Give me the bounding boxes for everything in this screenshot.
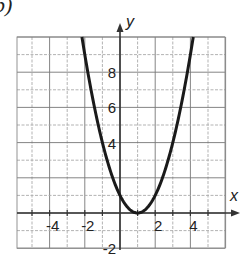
axes bbox=[17, 23, 240, 250]
y-tick-label: 6 bbox=[108, 99, 116, 116]
tick-labels: -4-224864-2 bbox=[46, 64, 198, 257]
x-axis-label: x bbox=[229, 187, 239, 204]
y-tick-label: 8 bbox=[108, 64, 116, 81]
y-tick-label: 4 bbox=[108, 135, 116, 152]
y-tick-label: -2 bbox=[103, 240, 116, 257]
x-tick-label: 2 bbox=[154, 217, 162, 234]
x-tick-label: 4 bbox=[189, 217, 197, 234]
parabola-chart: -4-224864-2 x y bbox=[0, 0, 250, 272]
y-axis-label: y bbox=[125, 13, 135, 30]
x-tick-label: -4 bbox=[46, 217, 59, 234]
y-axis-arrow-icon bbox=[117, 23, 124, 32]
x-tick-label: -2 bbox=[81, 217, 94, 234]
x-axis-arrow-icon bbox=[231, 210, 240, 217]
